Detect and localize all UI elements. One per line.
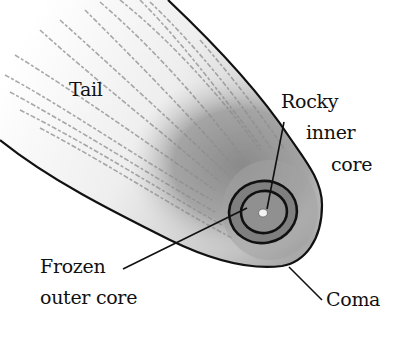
label-tail: Tail <box>69 80 102 99</box>
label-inner: inner <box>306 123 355 142</box>
label-core: core <box>331 155 372 174</box>
nucleus <box>259 209 268 217</box>
comet-diagram: Tail Rocky inner core Frozen outer core … <box>0 0 409 343</box>
label-frozen: Frozen <box>40 257 105 276</box>
label-coma: Coma <box>326 290 380 309</box>
label-outer-core: outer core <box>40 288 137 307</box>
label-rocky: Rocky <box>281 92 338 111</box>
leader-line-coma <box>289 267 322 300</box>
